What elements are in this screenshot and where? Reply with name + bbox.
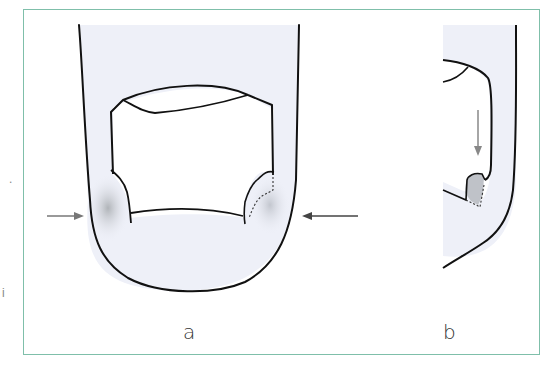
panel-label-a: a — [183, 320, 195, 344]
panel-a-finger — [79, 25, 299, 291]
nail-diagram — [0, 0, 554, 374]
panel-label-b: b — [443, 320, 456, 344]
arrow-left-icon — [302, 212, 358, 220]
arrow-right-icon — [47, 212, 84, 220]
